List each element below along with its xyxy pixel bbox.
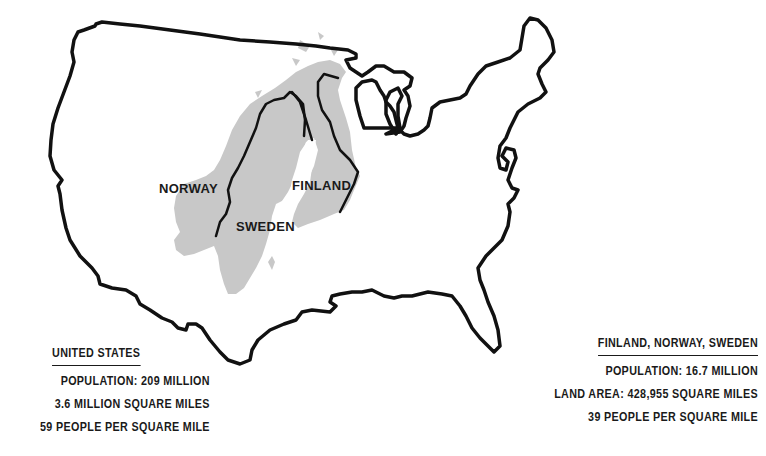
scandinavia-landmass bbox=[174, 32, 360, 294]
legend-us-population: POPULATION: 209 MILLION bbox=[40, 370, 210, 393]
legend-nordic-density: 39 PEOPLE PER SQUARE MILE bbox=[554, 406, 758, 429]
legend-nordic-title: FINLAND, NORWAY, SWEDEN bbox=[598, 334, 758, 356]
legend-nordic-population: POPULATION: 16.7 MILLION bbox=[554, 360, 758, 383]
label-finland: FINLAND bbox=[292, 178, 351, 193]
legend-united-states: UNITED STATES POPULATION: 209 MILLION 3.… bbox=[40, 342, 210, 439]
legend-nordic-countries: FINLAND, NORWAY, SWEDEN POPULATION: 16.7… bbox=[554, 332, 758, 429]
legend-us-area: 3.6 MILLION SQUARE MILES bbox=[40, 393, 210, 416]
legend-nordic-area: LAND AREA: 428,955 SQUARE MILES bbox=[554, 383, 758, 406]
legend-us-title: UNITED STATES bbox=[52, 344, 140, 366]
label-sweden: SWEDEN bbox=[236, 219, 295, 234]
label-norway: NORWAY bbox=[159, 181, 218, 196]
legend-us-density: 59 PEOPLE PER SQUARE MILE bbox=[40, 416, 210, 439]
